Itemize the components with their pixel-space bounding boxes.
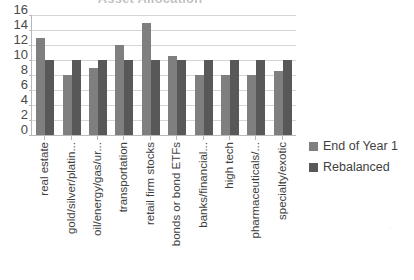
legend-item[interactable]: Rebalanced: [309, 160, 398, 174]
legend-swatch-icon: [309, 163, 318, 172]
x-axis-cell: oil/energy/gas/ur...: [84, 140, 110, 278]
bar: [230, 60, 239, 135]
y-tick-label: 12: [14, 35, 28, 45]
chart-title: Asset Allocation: [0, 0, 300, 6]
x-tick-label: banks/financial...: [197, 142, 209, 228]
x-axis-cell: real estate: [31, 140, 57, 278]
x-tick-label: retail firm stocks: [144, 142, 156, 225]
bar: [274, 71, 283, 135]
bar-groups: [32, 15, 296, 135]
x-axis-cell: transportation: [110, 140, 136, 278]
x-tick-label: oil/energy/gas/ur...: [91, 142, 103, 236]
bar: [247, 75, 256, 135]
bar-group: [270, 15, 296, 135]
bar: [195, 75, 204, 135]
bar: [204, 60, 213, 135]
y-tick-mark: [29, 135, 32, 136]
bar: [151, 60, 160, 135]
bar-group: [190, 15, 216, 135]
bar-group: [138, 15, 164, 135]
x-tick-label: transportation: [117, 142, 129, 212]
x-tick-mark: [282, 136, 283, 140]
bar: [124, 60, 133, 135]
y-tick-label: 6: [21, 80, 28, 90]
legend-item[interactable]: End of Year 1: [309, 139, 398, 153]
x-axis-cell: bonds or bond ETFs: [163, 140, 189, 278]
y-tick-label: 14: [14, 20, 28, 30]
legend-label: End of Year 1: [323, 139, 398, 153]
x-tick-mark: [150, 136, 151, 140]
x-tick-label: bonds or bond ETFs: [170, 142, 182, 246]
bar: [115, 45, 124, 135]
bar-group: [111, 15, 137, 135]
bar-group: [85, 15, 111, 135]
bar: [63, 75, 72, 135]
y-tick-label: 2: [21, 110, 28, 120]
x-axis: real estategold/silver/platin...oil/ener…: [31, 140, 295, 278]
x-tick-label: gold/silver/platin...: [65, 142, 77, 234]
y-tick-label: 16: [14, 5, 28, 15]
y-tick-label: 10: [14, 50, 28, 60]
bar: [283, 60, 292, 135]
bar-group: [32, 15, 58, 135]
x-tick-label: pharmaceuticals/...: [249, 142, 261, 239]
x-tick-mark: [71, 136, 72, 140]
bar-chart: Asset Allocation 1614121086420 real esta…: [0, 0, 414, 280]
x-tick-mark: [44, 136, 45, 140]
x-tick-mark: [123, 136, 124, 140]
bar: [168, 56, 177, 135]
legend-label: Rebalanced: [323, 160, 390, 174]
y-tick-label: 4: [21, 95, 28, 105]
plot-area: [31, 15, 296, 136]
y-axis: 1614121086420: [2, 10, 28, 138]
chart-legend: End of Year 1Rebalanced: [309, 139, 398, 174]
x-tick-label: high tech: [223, 142, 235, 189]
y-tick-label: 8: [21, 65, 28, 75]
x-axis-cell: retail firm stocks: [137, 140, 163, 278]
bar: [256, 60, 265, 135]
x-tick-mark: [97, 136, 98, 140]
x-axis-cell: banks/financial...: [189, 140, 215, 278]
scan-artifact: ·: [389, 223, 392, 232]
legend-swatch-icon: [309, 142, 318, 151]
bar: [177, 60, 186, 135]
bar: [142, 23, 151, 136]
bar-group: [243, 15, 269, 135]
bar-group: [217, 15, 243, 135]
x-tick-mark: [176, 136, 177, 140]
bar-group: [164, 15, 190, 135]
x-axis-cell: gold/silver/platin...: [57, 140, 83, 278]
x-tick-label: real estate: [38, 142, 50, 196]
bar: [45, 60, 54, 135]
bar-group: [58, 15, 84, 135]
x-tick-mark: [255, 136, 256, 140]
x-axis-cell: high tech: [216, 140, 242, 278]
bar: [36, 38, 45, 136]
x-tick-mark: [229, 136, 230, 140]
x-axis-cell: pharmaceuticals/...: [242, 140, 268, 278]
x-tick-mark: [203, 136, 204, 140]
bar: [221, 75, 230, 135]
x-axis-cell: specialty/exotic: [269, 140, 295, 278]
bar: [98, 60, 107, 135]
bar: [72, 60, 81, 135]
x-tick-label: specialty/exotic: [276, 142, 288, 220]
y-tick-label: 0: [21, 125, 28, 135]
bar: [89, 68, 98, 136]
